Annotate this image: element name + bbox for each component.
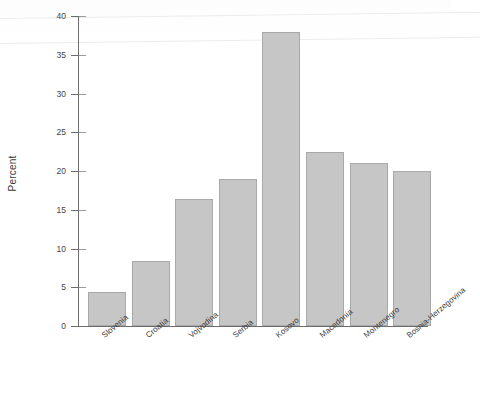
y-axis-tick-label: 10 [40, 245, 66, 254]
y-axis-tick [71, 132, 78, 133]
y-axis-tick [71, 210, 78, 211]
y-axis-tick-label: 35 [40, 51, 66, 60]
y-axis-tick [71, 171, 78, 172]
y-axis-tick [71, 287, 78, 288]
y-axis-tick-label: 0 [40, 322, 66, 331]
y-axis-tick-inner [79, 287, 86, 288]
y-axis-title: Percent [7, 144, 18, 204]
bar [350, 163, 388, 326]
y-axis-tick-label: 5 [40, 283, 66, 292]
bar [306, 152, 344, 326]
y-axis-tick-label: 15 [40, 206, 66, 215]
y-axis-tick [71, 94, 78, 95]
y-axis-tick-inner [79, 249, 86, 250]
bar [393, 171, 431, 326]
y-axis-tick-inner [79, 16, 86, 17]
y-axis-tick-inner [79, 171, 86, 172]
bar [175, 199, 213, 326]
y-axis-tick-inner [79, 94, 86, 95]
y-axis-tick [71, 249, 78, 250]
y-axis-tick [71, 326, 78, 327]
y-axis-tick-label: 20 [40, 167, 66, 176]
bar [219, 179, 257, 326]
y-axis-tick [71, 55, 78, 56]
y-axis-tick-label: 30 [40, 90, 66, 99]
y-axis-tick-inner [79, 132, 86, 133]
y-axis-tick-label: 40 [40, 12, 66, 21]
scan-artifact-line [0, 37, 480, 45]
scan-tint [0, 0, 451, 46]
y-axis-tick [71, 16, 78, 17]
y-axis-tick-inner [79, 210, 86, 211]
bar [262, 32, 300, 327]
y-axis-tick-label: 25 [40, 128, 66, 137]
y-axis-tick-inner [79, 55, 86, 56]
